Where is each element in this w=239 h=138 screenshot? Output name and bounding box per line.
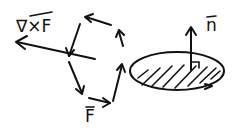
curl-label: ∇×F [16, 18, 51, 35]
field-label: F [85, 108, 95, 125]
circulation-loop [66, 14, 125, 107]
curl-arrow [16, 36, 95, 59]
normal-arrow [186, 27, 199, 70]
normal-label: n [206, 17, 217, 34]
surface-disk [130, 52, 224, 90]
